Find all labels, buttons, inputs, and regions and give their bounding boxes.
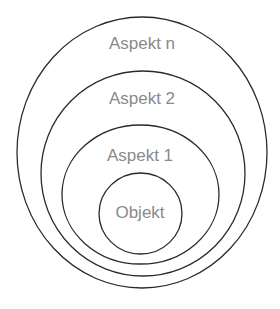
label-objekt: Objekt xyxy=(115,203,164,222)
label-aspekt-2: Aspekt 2 xyxy=(109,89,175,108)
label-aspekt-1: Aspekt 1 xyxy=(107,146,173,165)
nested-aspects-diagram: Aspekt n Aspekt 2 Aspekt 1 Objekt xyxy=(0,0,280,309)
label-aspekt-n: Aspekt n xyxy=(109,34,175,53)
